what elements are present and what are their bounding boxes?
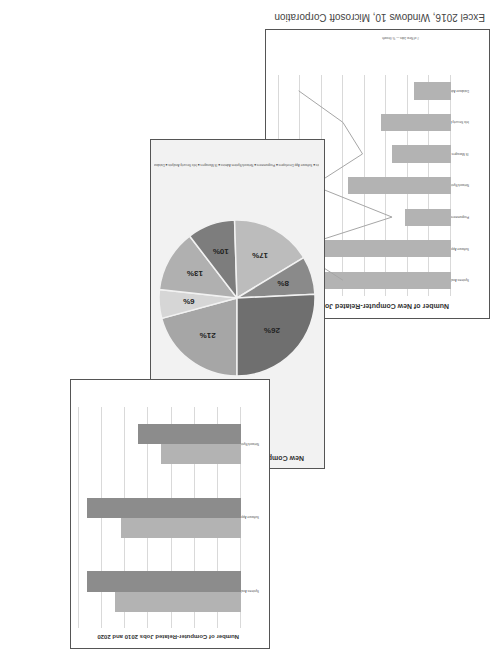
bar [161,444,241,464]
category-label: Software App Developers [241,516,259,520]
bar [138,424,241,444]
bar [87,571,241,591]
category-label: Systems Analysts [241,589,259,593]
pie-slice-label: 26% [264,326,280,335]
pie-legend: ■ Systems Analysts ■ Software App Develo… [154,163,319,167]
category-label: Network/System Admins [241,442,259,446]
pie-slice-label: 6% [183,297,195,306]
caption: Excel 2016, Windows 10, Microsoft Corpor… [274,12,485,23]
pie-slice-label: 13% [187,269,203,278]
pie-slice-label: 17% [252,251,268,260]
gridline [78,407,79,628]
pie-slice-label: 10% [213,247,229,256]
bar [87,498,241,518]
chart-title: Number of Computer-Related Jobs 2010 and… [97,634,239,640]
rotated-photo: Excel 2016, Windows 10, Microsoft Corpor… [0,0,495,659]
pie-slice-label: 8% [277,279,289,288]
bar [121,518,241,538]
pie-slice-label: 21% [200,331,216,340]
legend: # of New Jobs — % Growth [382,36,419,40]
chart-card-2010-2020: Number of Computer-Related Jobs 2010 and… [70,379,270,649]
plot-area: Systems AnalystsSoftware App DevelopersN… [79,393,259,628]
bar [115,592,241,612]
